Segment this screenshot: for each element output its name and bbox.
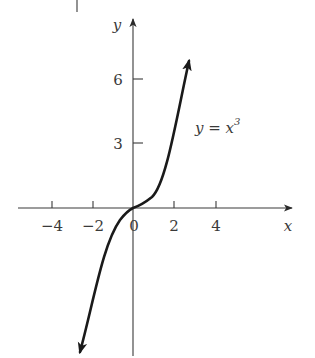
function-label-text: y = x bbox=[194, 119, 235, 137]
cubic-function-graph: −4 −2 0 2 4 6 3 x y y = x3 bbox=[0, 0, 315, 358]
y-ticks bbox=[133, 79, 143, 143]
y-tick-label: 3 bbox=[113, 135, 123, 153]
x-tick-label: 4 bbox=[211, 217, 221, 235]
y-tick-label: 6 bbox=[113, 71, 123, 89]
x-axis-label: x bbox=[284, 217, 293, 235]
y-axis-label: y bbox=[112, 16, 122, 34]
x-tick-label: 0 bbox=[129, 217, 139, 235]
x-tick-label: −2 bbox=[82, 217, 104, 235]
function-label-exponent: 3 bbox=[234, 116, 240, 127]
x-tick-label: 2 bbox=[169, 217, 179, 235]
function-label: y = x3 bbox=[194, 116, 240, 137]
cubic-curve bbox=[80, 61, 189, 352]
x-tick-label: −4 bbox=[41, 217, 63, 235]
